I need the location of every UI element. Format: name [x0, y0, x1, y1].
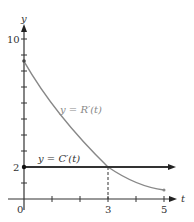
t-tick-label-3: 3: [105, 204, 111, 215]
c-line-arrow-icon: [168, 164, 176, 170]
y-tick-label-10: 10: [7, 34, 20, 45]
c-line-start-dot: [22, 165, 26, 169]
r-curve-label: y = R′(t): [59, 104, 102, 115]
t-tick-label-5: 5: [161, 204, 167, 215]
y-axis-label: y: [20, 13, 27, 24]
y-axis-arrow-icon: [21, 24, 27, 32]
origin-label: 0: [17, 204, 23, 215]
y-tick-label-2: 2: [13, 162, 19, 173]
t-axis-label: t: [181, 193, 186, 204]
chart: y 10 2 0 3 5 t y = R′(t) y = C′(t): [0, 0, 194, 222]
t-axis-arrow-icon: [169, 196, 177, 202]
r-curve-start-dot: [22, 59, 26, 63]
r-curve-end-dot: [163, 189, 166, 192]
r-prime-curve: [24, 61, 164, 190]
c-line-label: y = C′(t): [37, 153, 80, 164]
